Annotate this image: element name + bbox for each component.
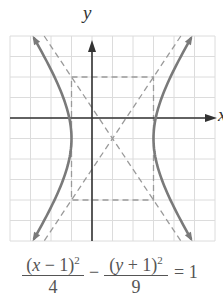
curve-arrow-icon: [33, 36, 40, 46]
fraction-x-numerator: (x − 1)2: [22, 250, 84, 276]
curve-arrow-icon: [33, 232, 40, 242]
fraction-y-term: (y + 1)2 9: [104, 250, 168, 296]
curve-arrow-icon: [185, 232, 192, 242]
fraction-y-denominator: 9: [104, 276, 168, 296]
fraction-y-numerator: (y + 1)2: [104, 250, 168, 276]
coordinate-plane: [0, 0, 223, 250]
equals-one: = 1: [174, 262, 198, 282]
variable-x: x: [32, 255, 40, 275]
fraction-x-denominator: 4: [22, 276, 84, 296]
exponent: 2: [157, 254, 163, 266]
exponent: 2: [74, 254, 80, 266]
y-axis-label: y: [83, 2, 91, 24]
minus-operator: −: [89, 262, 99, 282]
hyperbola-equation: (x − 1)2 4 − (y + 1)2 9 = 1: [22, 250, 222, 296]
y-axis-arrow-icon: [88, 40, 96, 52]
fraction-x-term: (x − 1)2 4: [22, 250, 84, 296]
curve-arrow-icon: [185, 36, 192, 46]
variable-y: y: [115, 255, 123, 275]
x-axis-label: x: [218, 104, 223, 126]
